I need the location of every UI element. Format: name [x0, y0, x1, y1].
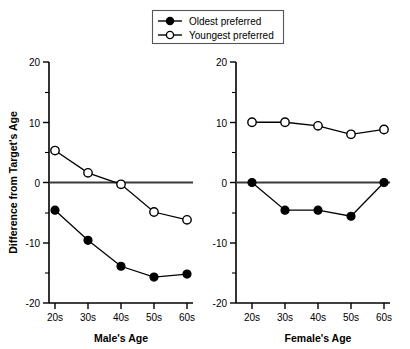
data-point-filled-circle	[281, 206, 289, 214]
male-yticklabel-neg20: -20	[26, 298, 41, 309]
male-oldest-markers	[51, 206, 191, 281]
male-xticklabel-50s: 50s	[146, 312, 162, 323]
male-yticklabel-0: 0	[34, 178, 40, 189]
data-point-filled-circle	[248, 179, 256, 187]
data-point-filled-circle	[117, 262, 125, 270]
female-xticklabel-40s: 40s	[310, 312, 326, 323]
chart-svg: Oldest preferred Youngest preferred	[0, 0, 410, 349]
data-point-open-circle	[380, 125, 388, 133]
female-series-youngest	[248, 118, 388, 138]
female-xlabel: Female's Age	[285, 332, 352, 344]
data-point-open-circle	[281, 118, 289, 126]
legend-label-youngest: Youngest preferred	[189, 30, 274, 41]
male-yticklabel-neg10: -10	[26, 238, 41, 249]
data-point-open-circle	[183, 216, 191, 224]
female-yticklabel-10: 10	[216, 118, 228, 129]
male-yticklabel-10: 10	[29, 118, 41, 129]
male-xticklabel-20s: 20s	[47, 312, 63, 323]
y-axis-title: Difference from Target's Age	[7, 111, 19, 254]
female-xticklabel-20s: 20s	[244, 312, 260, 323]
male-series-youngest	[51, 146, 191, 224]
female-panel: 20 10 0 -10 -20 20s 30s 40s 50s 60s	[213, 57, 393, 344]
legend-label-oldest: Oldest preferred	[189, 16, 261, 27]
female-youngest-markers	[248, 118, 388, 138]
female-yticklabel-neg10: -10	[213, 238, 228, 249]
male-panel: 20 10 0 -10 -20 20s 30s 40s 50s 60s	[26, 57, 196, 344]
data-point-filled-circle	[183, 270, 191, 278]
male-xlabel: Male's Age	[94, 332, 148, 344]
male-series-oldest	[51, 206, 191, 281]
data-point-open-circle	[150, 208, 158, 216]
data-point-open-circle	[117, 180, 125, 188]
data-point-filled-circle	[314, 206, 322, 214]
data-point-open-circle	[51, 146, 59, 154]
female-yticklabel-0: 0	[221, 178, 227, 189]
male-xticklabel-40s: 40s	[113, 312, 129, 323]
data-point-filled-circle	[347, 212, 355, 220]
male-xticklabel-60s: 60s	[179, 312, 195, 323]
data-point-open-circle	[314, 122, 322, 130]
male-yticklabel-20: 20	[29, 57, 41, 68]
female-xticklabel-50s: 50s	[343, 312, 359, 323]
chart-legend: Oldest preferred Youngest preferred	[153, 11, 284, 44]
male-youngest-markers	[51, 146, 191, 224]
data-point-open-circle	[347, 130, 355, 138]
female-yticklabel-neg20: -20	[213, 298, 228, 309]
filled-circle-icon	[166, 17, 173, 24]
data-point-open-circle	[84, 169, 92, 177]
open-circle-icon	[166, 31, 173, 38]
data-point-filled-circle	[150, 273, 158, 281]
male-xticklabel-30s: 30s	[80, 312, 96, 323]
data-point-filled-circle	[84, 236, 92, 244]
data-point-filled-circle	[51, 206, 59, 214]
data-point-open-circle	[248, 118, 256, 126]
female-xticklabel-30s: 30s	[277, 312, 293, 323]
female-yticklabel-20: 20	[216, 57, 228, 68]
data-point-filled-circle	[380, 179, 388, 187]
female-series-oldest	[248, 179, 388, 221]
female-xticklabel-60s: 60s	[376, 312, 392, 323]
chart-figure: Oldest preferred Youngest preferred	[0, 0, 410, 349]
